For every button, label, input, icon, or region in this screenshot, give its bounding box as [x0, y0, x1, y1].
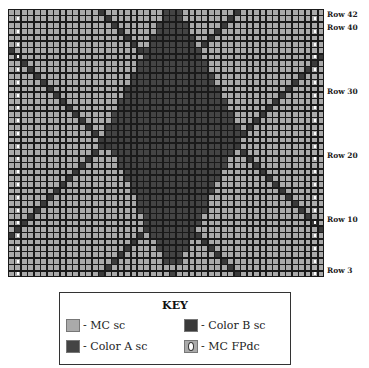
chart-cell: [112, 16, 117, 21]
chart-cell: [144, 195, 149, 200]
chart-cell: [196, 201, 201, 206]
chart-cell: [15, 99, 20, 104]
chart-cell: [54, 118, 59, 123]
chart-cell: [196, 80, 201, 85]
chart-cell: [61, 150, 66, 155]
chart-cell: [261, 272, 266, 277]
chart-cell: [190, 182, 195, 187]
chart-cell: [106, 246, 111, 251]
chart-cell: [228, 157, 233, 162]
chart-cell: [299, 29, 304, 34]
chart-cell: [254, 74, 259, 79]
chart-cell: [151, 170, 156, 175]
chart-cell: [273, 23, 278, 28]
chart-cell: [138, 125, 143, 130]
chart-cell: [286, 29, 291, 34]
chart-cell: [22, 144, 27, 149]
chart-cell: [267, 48, 272, 53]
chart-cell: [138, 144, 143, 149]
chart-cell: [54, 16, 59, 21]
chart-cell: [112, 125, 117, 130]
chart-cell: [41, 131, 46, 136]
chart-cell: [93, 144, 98, 149]
chart-cell: [35, 272, 40, 277]
chart-cell: [280, 61, 285, 66]
chart-cell: [261, 42, 266, 47]
chart-cell: [61, 176, 66, 181]
chart-cell: [164, 182, 169, 187]
chart-cell: [93, 55, 98, 60]
chart-cell: [190, 157, 195, 162]
chart-cell: [312, 112, 317, 117]
chart-cell: [41, 233, 46, 238]
chart-cell: [228, 201, 233, 206]
chart-cell: [228, 87, 233, 92]
chart-cell: [28, 170, 33, 175]
chart-cell: [151, 125, 156, 130]
chart-cell: [170, 23, 175, 28]
chart-cell: [202, 265, 207, 270]
chart-cell: [22, 74, 27, 79]
chart-cell: [228, 214, 233, 219]
chart-cell: [267, 36, 272, 41]
chart-cell: [286, 170, 291, 175]
chart-cell: [273, 189, 278, 194]
chart-cell: [99, 176, 104, 181]
chart-cell: [280, 99, 285, 104]
chart-cell: [267, 214, 272, 219]
chart-cell: [196, 36, 201, 41]
chart-cell: [293, 182, 298, 187]
chart-cell: [138, 67, 143, 72]
chart-cell: [306, 29, 311, 34]
chart-cell: [306, 118, 311, 123]
chart-cell: [267, 252, 272, 257]
chart-cell: [306, 99, 311, 104]
chart-cell: [22, 259, 27, 264]
chart-cell: [235, 67, 240, 72]
chart-cell: [319, 23, 324, 28]
chart-cell: [61, 29, 66, 34]
chart-cell: [132, 99, 137, 104]
chart-cell: [9, 150, 14, 155]
chart-cell: [106, 259, 111, 264]
chart-cell: [41, 48, 46, 53]
chart-cell: [125, 240, 130, 245]
chart-cell: [61, 214, 66, 219]
chart-cell: [228, 272, 233, 277]
fpdc-marker-icon: [17, 43, 19, 46]
chart-cell: [183, 67, 188, 72]
chart-cell: [93, 93, 98, 98]
chart-cell: [28, 74, 33, 79]
chart-cell: [299, 182, 304, 187]
chart-cell: [144, 157, 149, 162]
chart-cell: [54, 265, 59, 270]
chart-cell: [286, 201, 291, 206]
chart-cell: [248, 201, 253, 206]
chart-cell: [215, 36, 220, 41]
chart-cell: [196, 87, 201, 92]
chart-cell: [286, 99, 291, 104]
chart-cell: [93, 118, 98, 123]
chart-cell: [183, 272, 188, 277]
chart-cell: [28, 252, 33, 257]
chart-cell: [261, 163, 266, 168]
chart-cell: [254, 201, 259, 206]
chart-cell: [196, 221, 201, 226]
fpdc-marker-icon: [314, 260, 316, 263]
chart-cell: [254, 221, 259, 226]
chart-cell: [293, 138, 298, 143]
chart-cell: [86, 23, 91, 28]
chart-cell: [125, 214, 130, 219]
chart-cell: [215, 144, 220, 149]
chart-cell: [261, 176, 266, 181]
chart-cell: [48, 170, 53, 175]
chart-cell: [9, 112, 14, 117]
chart-cell: [93, 221, 98, 226]
chart-cell: [41, 157, 46, 162]
chart-cell: [299, 163, 304, 168]
chart-cell: [235, 240, 240, 245]
chart-cell: [319, 214, 324, 219]
chart-cell: [15, 74, 20, 79]
fpdc-marker-icon: [17, 260, 19, 263]
chart-cell: [228, 265, 233, 270]
